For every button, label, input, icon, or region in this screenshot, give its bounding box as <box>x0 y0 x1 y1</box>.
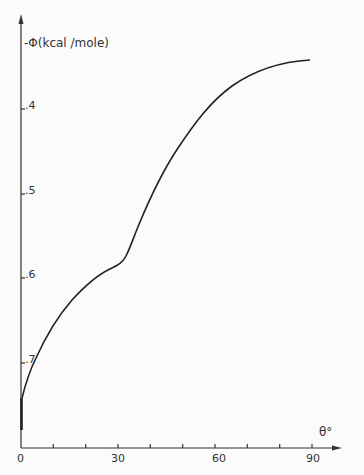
y-tick-label: .5 <box>25 184 36 197</box>
y-axis-arrow-icon <box>19 14 24 24</box>
y-tick-label: .7 <box>25 353 36 366</box>
x-tick-label: 0 <box>17 452 24 465</box>
x-tick-label: 90 <box>306 452 320 465</box>
x-axis-label: θ° <box>319 425 332 439</box>
phi-curve <box>22 60 310 398</box>
y-tick-label: .4 <box>25 99 36 112</box>
x-tick-label: 30 <box>111 452 125 465</box>
x-tick-label: 60 <box>212 452 226 465</box>
y-tick-label: .6 <box>25 268 36 281</box>
x-axis-arrow-icon <box>332 446 342 451</box>
chart-canvas <box>0 0 364 475</box>
y-axis-label: -Φ(kcal /mole) <box>24 36 109 50</box>
